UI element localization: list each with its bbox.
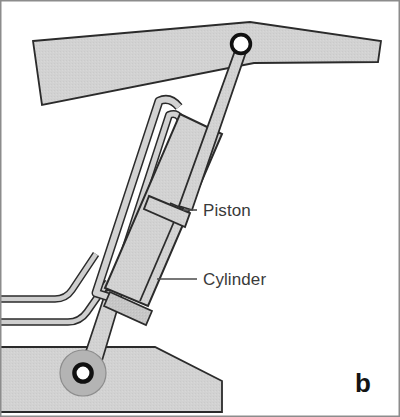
cylinder-callout-label: Cylinder [203,270,266,289]
lower-pivot-pin [74,364,91,381]
hydraulic-cylinder-diagram: Piston Cylinder b [0,0,400,417]
upper-pivot-pin [232,35,251,54]
piston-callout-label: Piston [203,201,251,220]
figure-container: Piston Cylinder b [0,0,400,417]
panel-letter: b [355,368,371,398]
